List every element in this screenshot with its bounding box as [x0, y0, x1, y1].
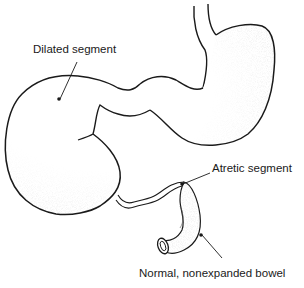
dilated-point-marker	[57, 97, 61, 101]
diagram-canvas: Dilated segment Atretic segment Normal, …	[0, 0, 304, 288]
atretic-point-marker	[180, 182, 184, 186]
normal-bowel	[156, 182, 201, 255]
label-dilated-segment: Dilated segment	[33, 44, 116, 56]
normal-point-marker	[199, 233, 203, 237]
label-normal-bowel: Normal, nonexpanded bowel	[139, 268, 285, 280]
label-atretic-segment: Atretic segment	[212, 163, 292, 175]
atretic-segment	[116, 182, 184, 208]
leader-normal	[199, 233, 222, 258]
